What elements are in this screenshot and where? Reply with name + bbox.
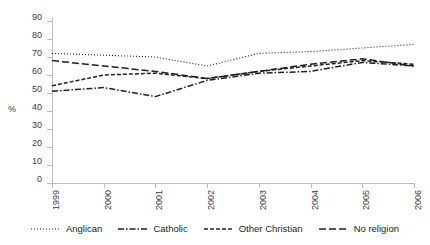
legend-line-swatch <box>118 225 148 233</box>
chart-legend: AnglicanCatholicOther ChristianNo religi… <box>0 224 430 234</box>
legend-line-swatch <box>204 225 234 233</box>
y-axis-tick <box>47 75 52 76</box>
legend-item-label: Anglican <box>66 224 102 234</box>
legend-item-label: Other Christian <box>239 224 303 234</box>
x-axis-tick <box>311 183 312 188</box>
y-axis-tick <box>47 57 52 58</box>
y-axis-tick <box>47 21 52 22</box>
x-axis-tick-label: 2006 <box>414 190 423 210</box>
y-axis-tick-label: 50 <box>20 84 42 93</box>
legend-item[interactable]: No religion <box>319 224 399 234</box>
y-axis-tick-label: 60 <box>20 66 42 75</box>
y-axis-tick-label: 20 <box>20 138 42 147</box>
x-axis-tick-label: 2003 <box>258 190 267 210</box>
legend-item[interactable]: Anglican <box>31 224 102 234</box>
y-axis-tick-label: 30 <box>20 120 42 129</box>
x-axis-tick-label: 2002 <box>207 190 216 210</box>
y-axis-tick-label: 0 <box>20 174 42 183</box>
y-axis-tick-label: 10 <box>20 156 42 165</box>
y-axis-tick <box>47 129 52 130</box>
y-axis-tick <box>47 165 52 166</box>
plot-area <box>52 21 414 183</box>
line-chart: % 0102030405060708090 199920002001200220… <box>0 0 430 245</box>
x-axis-tick <box>104 183 105 188</box>
x-axis-tick <box>52 183 53 188</box>
y-axis-tick <box>47 111 52 112</box>
legend-item-label: Catholic <box>153 224 187 234</box>
x-axis-tick-label: 2004 <box>310 190 319 210</box>
x-axis-tick <box>207 183 208 188</box>
y-axis-tick-label: 40 <box>20 102 42 111</box>
legend-line-swatch <box>319 225 349 233</box>
y-axis-tick-label: 90 <box>20 12 42 21</box>
x-axis-tick <box>259 183 260 188</box>
series-line <box>52 61 414 86</box>
x-axis-tick-label: 2005 <box>362 190 371 210</box>
y-axis-tick <box>47 147 52 148</box>
x-axis-tick <box>155 183 156 188</box>
y-axis-tick <box>47 93 52 94</box>
x-axis-line <box>52 183 414 184</box>
legend-item-label: No religion <box>354 224 399 234</box>
y-axis-title: % <box>8 104 16 114</box>
x-axis-tick-label: 2000 <box>103 190 112 210</box>
x-axis-tick-label: 2001 <box>155 190 164 210</box>
series-line <box>52 62 414 96</box>
series-layer <box>52 21 414 183</box>
x-axis-tick <box>362 183 363 188</box>
legend-line-swatch <box>31 225 61 233</box>
legend-item[interactable]: Other Christian <box>204 224 303 234</box>
x-axis-tick <box>414 183 415 188</box>
y-axis-tick-label: 70 <box>20 48 42 57</box>
y-axis-tick <box>47 39 52 40</box>
x-axis-tick-label: 1999 <box>52 190 61 210</box>
y-axis-tick-label: 80 <box>20 30 42 39</box>
legend-item[interactable]: Catholic <box>118 224 187 234</box>
